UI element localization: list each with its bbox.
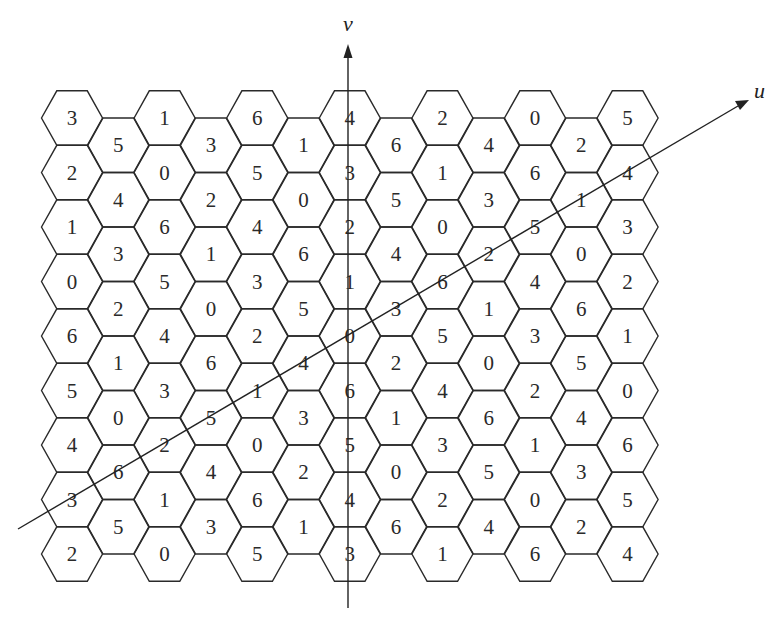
hex-cell-value: 4 — [391, 242, 402, 266]
hex-cell-value: 2 — [67, 542, 78, 566]
hex-cell-value: 6 — [391, 133, 402, 157]
hex-cell-value: 0 — [530, 488, 541, 512]
v-axis-label: v — [343, 11, 353, 36]
hex-cell-value: 5 — [622, 106, 633, 130]
hex-cell-value: 3 — [206, 515, 217, 539]
hex-cell-value: 5 — [252, 161, 263, 185]
v-axis-arrowhead — [344, 44, 353, 58]
hex-cell-value: 6 — [622, 433, 633, 457]
hex-cell-value: 3 — [437, 433, 448, 457]
hex-cell-value: 3 — [206, 133, 217, 157]
hex-cell-value: 3 — [530, 324, 541, 348]
hex-cell-value: 4 — [483, 515, 494, 539]
hex-cell-value: 3 — [67, 106, 78, 130]
hex-cell-value: 3 — [576, 460, 587, 484]
hex-cell-value: 6 — [530, 542, 541, 566]
hex-cell-value: 1 — [391, 406, 402, 430]
hex-cell-value: 4 — [206, 460, 217, 484]
hex-cell-value: 0 — [159, 161, 170, 185]
hex-cell-value: 1 — [530, 433, 541, 457]
hex-cell-value: 0 — [67, 270, 78, 294]
hex-cells: 3210654325432106510654321032106543654321… — [42, 91, 659, 582]
hex-cell-value: 0 — [576, 242, 587, 266]
hex-cell-value: 5 — [252, 542, 263, 566]
hex-cell-value: 6 — [67, 324, 78, 348]
hex-cell-value: 2 — [576, 133, 587, 157]
hex-cell-value: 1 — [206, 242, 217, 266]
hex-cell-value: 2 — [576, 515, 587, 539]
hex-cell-value: 6 — [252, 106, 263, 130]
hex-cell-value: 3 — [298, 406, 309, 430]
hex-cell-value: 5 — [483, 460, 494, 484]
hex-cell-value: 0 — [252, 433, 263, 457]
hex-cell-value: 2 — [298, 460, 309, 484]
hex-cell-value: 4 — [345, 106, 356, 130]
hex-cell-value: 6 — [391, 515, 402, 539]
hex-cell-value: 0 — [530, 106, 541, 130]
hex-cell-value: 3 — [345, 542, 356, 566]
hex-cell-value: 1 — [622, 324, 633, 348]
hex-cell-value: 1 — [67, 215, 78, 239]
hex-cell-value: 1 — [298, 133, 309, 157]
hex-cell-value: 1 — [345, 270, 356, 294]
hex-cell-value: 6 — [576, 297, 587, 321]
hex-cell-value: 3 — [113, 242, 124, 266]
hex-cell-value: 4 — [622, 542, 633, 566]
hex-cell-value: 2 — [345, 215, 356, 239]
hex-cell-value: 5 — [391, 188, 402, 212]
hex-grid-figure: 3210654325432106510654321032106543654321… — [0, 0, 778, 621]
hex-cell-value: 5 — [298, 297, 309, 321]
hex-cell-value: 6 — [298, 242, 309, 266]
u-axis-label: u — [754, 78, 765, 103]
hex-cell-value: 0 — [622, 379, 633, 403]
hex-cell-value: 0 — [206, 297, 217, 321]
hex-cell-value: 3 — [252, 270, 263, 294]
hex-cell-value: 4 — [159, 324, 170, 348]
hex-cell-value: 0 — [391, 460, 402, 484]
hex-cell-value: 2 — [622, 270, 633, 294]
hex-grid-canvas: 3210654325432106510654321032106543654321… — [0, 0, 778, 621]
hex-cell-value: 3 — [345, 161, 356, 185]
hex-cell-value: 2 — [437, 106, 448, 130]
hex-cell-value: 5 — [576, 351, 587, 375]
hex-cell-value: 2 — [206, 188, 217, 212]
hex-cell-value: 4 — [483, 133, 494, 157]
hex-cell-value: 1 — [437, 161, 448, 185]
hex-cell-value: 2 — [252, 324, 263, 348]
hex-cell-value: 3 — [159, 379, 170, 403]
hex-cell-value: 5 — [67, 379, 78, 403]
hex-cell-value: 5 — [113, 133, 124, 157]
hex-cell-value: 0 — [437, 215, 448, 239]
hex-cell-value: 0 — [483, 351, 494, 375]
hex-cell-value: 4 — [437, 379, 448, 403]
u-axis-arrowhead — [735, 100, 749, 110]
hex-cell-value: 5 — [159, 270, 170, 294]
hex-cell-value: 0 — [159, 542, 170, 566]
hex-cell-value: 6 — [345, 379, 356, 403]
hex-cell-value: 1 — [483, 297, 494, 321]
hex-cell-value: 1 — [159, 106, 170, 130]
hex-cell-value: 6 — [159, 215, 170, 239]
hex-cell-value: 3 — [622, 215, 633, 239]
hex-cell-value: 6 — [483, 406, 494, 430]
hex-cell-value: 5 — [113, 515, 124, 539]
hex-cell-value: 2 — [113, 297, 124, 321]
hex-cell-value: 2 — [391, 351, 402, 375]
hex-cell-value: 1 — [437, 542, 448, 566]
hex-cell-value: 3 — [483, 188, 494, 212]
hex-cell-value: 2 — [67, 161, 78, 185]
hex-cell-value: 5 — [345, 433, 356, 457]
hex-cell-value: 5 — [437, 324, 448, 348]
hex-cell-value: 1 — [113, 351, 124, 375]
hex-cell-value: 2 — [437, 488, 448, 512]
hex-cell-value: 4 — [530, 270, 541, 294]
hex-cell-value: 6 — [530, 161, 541, 185]
hex-cell-value: 4 — [252, 215, 263, 239]
hex-cell-value: 1 — [159, 488, 170, 512]
hex-cell-value: 4 — [113, 188, 124, 212]
hex-cell-value: 6 — [252, 488, 263, 512]
hex-cell-value: 6 — [206, 351, 217, 375]
hex-cell-value: 4 — [67, 433, 78, 457]
hex-cell-value: 4 — [345, 488, 356, 512]
hex-cell-value: 5 — [622, 488, 633, 512]
